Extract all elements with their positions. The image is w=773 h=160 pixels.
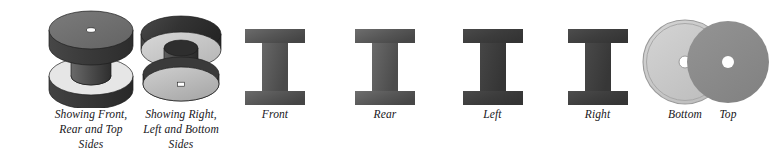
spool-top-view-icon: [684, 18, 772, 106]
panel-view-left: Left: [440, 0, 545, 160]
artwork-area: [440, 4, 545, 104]
caption-line: Front: [220, 107, 330, 122]
artwork-area: [618, 4, 773, 104]
caption-view-left: Left: [440, 107, 545, 122]
panel-view-top: Top: [618, 0, 773, 160]
caption-line: Rear: [330, 107, 440, 122]
spool-front-view-icon: [244, 28, 306, 106]
artwork-area: [220, 4, 330, 104]
caption-line: Left: [440, 107, 545, 122]
spool-rear-view-icon: [354, 28, 416, 106]
panel-view-rear: Rear: [330, 0, 440, 160]
panel-view-front: Front: [220, 0, 330, 160]
artwork-area: [330, 4, 440, 104]
caption-line: Top: [618, 107, 773, 122]
spool-left-view-icon: [462, 28, 524, 106]
caption-view-front: Front: [220, 107, 330, 122]
caption-view-rear: Rear: [330, 107, 440, 122]
caption-view-top: Top: [618, 107, 773, 122]
spool-isometric-bottom-icon: [131, 4, 231, 108]
